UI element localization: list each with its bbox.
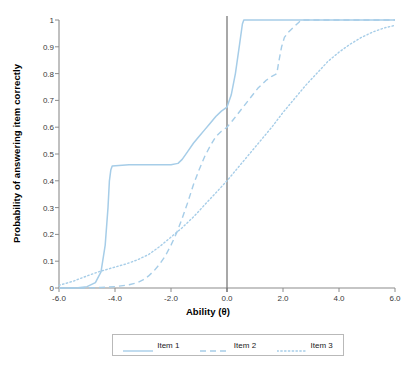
y-tick-label: 0.8 bbox=[26, 69, 54, 78]
y-tick-label: 0.1 bbox=[26, 257, 54, 266]
x-tick-label: 0.0 bbox=[221, 294, 232, 303]
y-tick-label: 0.4 bbox=[26, 176, 54, 185]
y-tick-label: 0 bbox=[26, 284, 54, 293]
x-tick-label: 6.0 bbox=[389, 294, 400, 303]
legend-swatch-solid-icon bbox=[123, 341, 153, 349]
x-tick-label: -2.0 bbox=[164, 294, 178, 303]
legend-swatch-dashed-icon bbox=[200, 341, 230, 349]
legend-label: Item 3 bbox=[311, 341, 333, 350]
legend-label: Item 1 bbox=[157, 341, 179, 350]
axes bbox=[55, 20, 395, 292]
legend-swatch-dotted-icon bbox=[277, 341, 307, 349]
y-axis-ticks bbox=[55, 20, 59, 288]
y-tick-label: 0.7 bbox=[26, 96, 54, 105]
x-tick-label: 4.0 bbox=[333, 294, 344, 303]
legend-item-item-1[interactable]: Item 1 bbox=[123, 341, 179, 350]
legend-item-item-2[interactable]: Item 2 bbox=[200, 341, 256, 350]
y-tick-label: 0.6 bbox=[26, 123, 54, 132]
y-tick-label: 0.2 bbox=[26, 230, 54, 239]
legend-item-item-3[interactable]: Item 3 bbox=[277, 341, 333, 350]
y-tick-label: 0.3 bbox=[26, 203, 54, 212]
y-tick-label: 0.5 bbox=[26, 150, 54, 159]
x-tick-label: 2.0 bbox=[277, 294, 288, 303]
y-tick-label: 0.9 bbox=[26, 42, 54, 51]
item-characteristic-curve-chart: 00.10.20.30.40.50.60.70.80.91 -6.0-4.0-2… bbox=[0, 0, 416, 368]
x-tick-label: -6.0 bbox=[52, 294, 66, 303]
y-tick-label: 1 bbox=[26, 16, 54, 25]
legend: Item 1Item 2Item 3 bbox=[112, 334, 344, 356]
x-tick-label: -4.0 bbox=[108, 294, 122, 303]
x-axis-title: Ability (θ) bbox=[0, 306, 416, 317]
legend-label: Item 2 bbox=[234, 341, 256, 350]
y-axis-title: Probability of answering item correctly bbox=[9, 42, 25, 264]
